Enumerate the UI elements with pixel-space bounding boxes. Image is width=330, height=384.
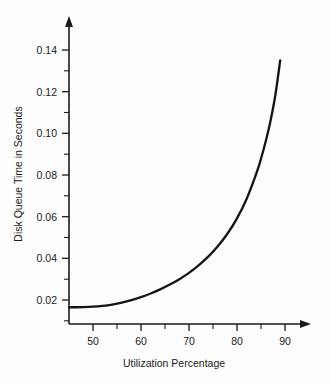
y-axis-title: Disk Queue Time in Seconds <box>12 106 24 241</box>
y-axis-major-ticks <box>62 50 69 300</box>
line-chart: 0.14 0.12 0.10 0.08 0.06 0.04 0.02 50 60… <box>0 0 330 384</box>
x-axis-major-ticks <box>93 324 285 331</box>
x-tick-label: 90 <box>279 335 291 347</box>
y-tick-label: 0.04 <box>37 252 58 264</box>
data-series-curve <box>69 60 280 307</box>
y-tick-label: 0.02 <box>37 294 58 306</box>
x-tick-label: 50 <box>87 335 99 347</box>
x-tick-label: 80 <box>231 335 243 347</box>
x-axis-title: Utilization Percentage <box>123 357 225 369</box>
y-tick-label: 0.06 <box>37 211 58 223</box>
y-axis-arrow-icon <box>65 16 73 27</box>
y-tick-label: 0.08 <box>37 169 58 181</box>
x-axis-arrow-icon <box>300 320 311 328</box>
y-tick-label: 0.10 <box>37 127 58 139</box>
y-tick-label: 0.12 <box>37 86 58 98</box>
y-tick-label: 0.14 <box>37 44 58 56</box>
x-tick-label: 60 <box>135 335 147 347</box>
chart-figure: 0.14 0.12 0.10 0.08 0.06 0.04 0.02 50 60… <box>0 0 330 384</box>
x-tick-label: 70 <box>183 335 195 347</box>
